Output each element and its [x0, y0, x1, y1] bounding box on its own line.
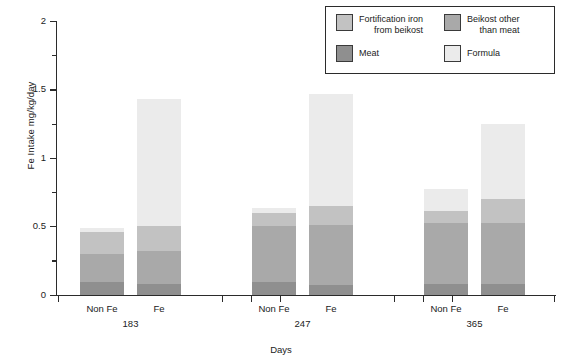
y-tick-minor [52, 260, 56, 261]
x-tick-mark [452, 296, 453, 302]
bar-segment-formula [424, 189, 468, 211]
bar-segment-formula [309, 94, 353, 206]
y-tick-label: 0.5 [14, 221, 46, 231]
bar-segment-fortification-iron-from-beikost [137, 226, 181, 251]
bar-segment-fortification-iron-from-beikost [309, 206, 353, 225]
y-tick-minor [52, 124, 56, 125]
y-tick-mark [50, 158, 56, 159]
bar-segment-meat [309, 285, 353, 295]
bar-segment-meat [252, 282, 296, 294]
legend-item-fortification-iron[interactable]: Fortification iron from beikost [336, 14, 438, 39]
bar-365-non-fe [424, 189, 468, 294]
bar-183-non-fe [80, 228, 124, 295]
y-tick-minor [52, 192, 56, 193]
y-axis-title: Fe Intake mg/kg/day [25, 36, 36, 216]
bar-label: Fe [296, 303, 366, 314]
bar-segment-beikost-other-than-meat [252, 226, 296, 282]
bar-segment-meat [137, 284, 181, 295]
legend-label: Beikost other than meat [467, 14, 520, 35]
x-tick-mark [58, 296, 59, 302]
x-tick-mark [251, 296, 252, 302]
x-axis-title: Days [0, 344, 562, 355]
bar-segment-fortification-iron-from-beikost [80, 232, 124, 254]
x-tick-mark [280, 296, 281, 302]
bar-365-fe [481, 124, 525, 295]
bar-segment-fortification-iron-from-beikost [252, 213, 296, 227]
bar-segment-beikost-other-than-meat [424, 223, 468, 283]
bar-label: Fe [124, 303, 194, 314]
fe-intake-stacked-bar-chart: Fe Intake mg/kg/day 21.510.50 Non FeFeNo… [0, 0, 562, 364]
y-tick-label: 1 [14, 153, 46, 163]
x-axis-line [56, 295, 556, 296]
group-label-365: 365 [430, 318, 520, 329]
bar-segment-formula [481, 124, 525, 199]
x-tick-mark [423, 296, 424, 302]
bar-183-fe [137, 99, 181, 295]
bar-segment-beikost-other-than-meat [80, 254, 124, 283]
legend-label: Fortification iron from beikost [359, 14, 423, 35]
bar-segment-beikost-other-than-meat [137, 251, 181, 284]
legend-swatch-icon [444, 14, 461, 31]
bar-segment-formula [137, 99, 181, 226]
y-tick-mark [50, 89, 56, 90]
bar-segment-beikost-other-than-meat [309, 225, 353, 285]
chart-legend: Fortification iron from beikostBeikost o… [325, 6, 555, 74]
legend-swatch-icon [336, 14, 353, 31]
legend-swatch-icon [444, 45, 461, 62]
x-tick-mark [222, 296, 223, 302]
y-axis-line [56, 21, 57, 296]
y-tick-label: 0 [14, 290, 46, 300]
y-tick-mark [50, 295, 56, 296]
bar-segment-beikost-other-than-meat [481, 223, 525, 283]
legend-item-beikost-other[interactable]: Beikost other than meat [444, 14, 546, 39]
bar-segment-fortification-iron-from-beikost [481, 199, 525, 224]
y-tick-label: 2 [14, 16, 46, 26]
legend-label: Meat [359, 45, 379, 59]
group-label-247: 247 [258, 318, 348, 329]
legend-swatch-icon [336, 45, 353, 62]
y-tick-label: 1.5 [14, 84, 46, 94]
x-tick-mark [394, 296, 395, 302]
group-label-183: 183 [86, 318, 176, 329]
legend-grid: Fortification iron from beikostBeikost o… [336, 14, 546, 66]
legend-item-meat[interactable]: Meat [336, 45, 438, 66]
y-tick-minor [52, 55, 56, 56]
x-tick-mark [554, 296, 555, 302]
bar-247-non-fe [252, 208, 296, 294]
bar-segment-meat [80, 282, 124, 294]
bar-label: Fe [468, 303, 538, 314]
legend-item-formula[interactable]: Formula [444, 45, 546, 66]
bar-segment-meat [424, 284, 468, 295]
bar-segment-meat [481, 284, 525, 295]
y-tick-mark [50, 226, 56, 227]
y-tick-mark [50, 21, 56, 22]
bar-segment-fortification-iron-from-beikost [424, 211, 468, 223]
bar-247-fe [309, 94, 353, 295]
legend-label: Formula [467, 45, 500, 59]
